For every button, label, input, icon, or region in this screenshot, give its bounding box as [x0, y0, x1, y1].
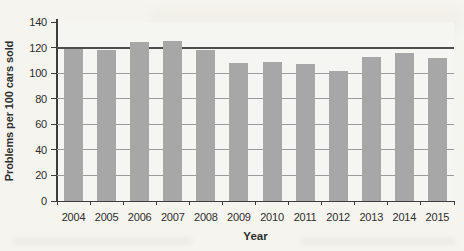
- x-tick-3: [156, 201, 157, 205]
- bar-2004: [64, 49, 83, 201]
- x-tick-4: [189, 201, 190, 205]
- x-tick-label-2008: 2008: [189, 211, 222, 223]
- y-tick-40: [51, 149, 57, 150]
- y-tick-label-0: 0: [9, 194, 47, 208]
- y-tick-label-20: 20: [9, 168, 47, 182]
- y-tick-100: [51, 73, 57, 74]
- x-tick-6: [255, 201, 256, 205]
- x-tick-label-2005: 2005: [90, 211, 123, 223]
- bar-2005: [97, 50, 116, 201]
- bar-2010: [263, 62, 282, 201]
- x-tick-label-2007: 2007: [156, 211, 189, 223]
- y-tick-label-60: 60: [9, 117, 47, 131]
- x-tick-5: [222, 201, 223, 205]
- plot-area: 0204060801001201402004200520062007200820…: [57, 22, 454, 201]
- x-tick-label-2015: 2015: [421, 211, 454, 223]
- x-tick-9: [354, 201, 355, 205]
- bar-2007: [163, 41, 182, 201]
- x-tick-label-2013: 2013: [355, 211, 388, 223]
- y-axis-title: Problems per 100 cars sold: [3, 31, 17, 191]
- x-tick-12: [454, 201, 455, 205]
- x-tick-label-2006: 2006: [123, 211, 156, 223]
- x-tick-label-2011: 2011: [289, 211, 322, 223]
- reference-line-120: [57, 47, 454, 49]
- bar-2009: [229, 63, 248, 201]
- chart-container: Problems per 100 cars sold 0204060801001…: [0, 0, 464, 251]
- y-tick-140: [51, 22, 57, 23]
- y-tick-20: [51, 175, 57, 176]
- x-tick-0: [57, 201, 58, 205]
- y-tick-label-120: 120: [9, 41, 47, 55]
- x-tick-7: [288, 201, 289, 205]
- x-axis-title: Year: [57, 230, 454, 242]
- bar-2008: [196, 50, 215, 201]
- x-tick-2: [123, 201, 124, 205]
- bar-2006: [130, 42, 149, 201]
- x-tick-label-2014: 2014: [388, 211, 421, 223]
- y-tick-80: [51, 98, 57, 99]
- y-tick-label-100: 100: [9, 66, 47, 80]
- x-tick-label-2009: 2009: [222, 211, 255, 223]
- bar-2012: [329, 71, 348, 201]
- x-tick-label-2010: 2010: [256, 211, 289, 223]
- bar-2015: [428, 58, 447, 201]
- bar-2011: [296, 64, 315, 201]
- y-tick-label-140: 140: [9, 15, 47, 29]
- bar-2014: [395, 53, 414, 201]
- x-tick-1: [90, 201, 91, 205]
- bar-2013: [362, 57, 381, 201]
- x-tick-8: [321, 201, 322, 205]
- x-tick-11: [420, 201, 421, 205]
- y-tick-120: [51, 47, 57, 48]
- y-tick-label-40: 40: [9, 143, 47, 157]
- x-tick-label-2012: 2012: [322, 211, 355, 223]
- y-tick-60: [51, 124, 57, 125]
- y-tick-label-80: 80: [9, 92, 47, 106]
- x-tick-label-2004: 2004: [57, 211, 90, 223]
- x-tick-10: [387, 201, 388, 205]
